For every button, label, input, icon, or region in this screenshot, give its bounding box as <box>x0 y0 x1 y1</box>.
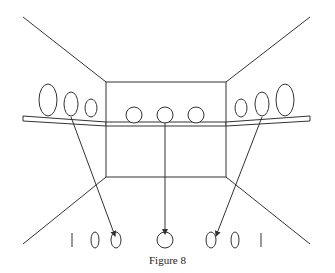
projected-oval <box>111 232 121 248</box>
shelf-object-left <box>85 99 97 117</box>
shelf-object-right <box>255 92 269 116</box>
shelf-right <box>226 116 310 126</box>
projected-circle <box>157 232 173 248</box>
projected-oval <box>91 232 99 248</box>
shelf-object-left <box>39 84 57 116</box>
figure-caption: Figure 8 <box>0 254 335 266</box>
perspective-line-top-right <box>226 17 310 82</box>
perspective-line-top-left <box>23 17 106 82</box>
projected-oval <box>206 232 216 248</box>
perspective-line-bottom-right <box>226 177 310 244</box>
shelf-object-right <box>276 84 294 116</box>
shelf-left <box>23 116 106 126</box>
room-walls <box>23 17 310 244</box>
back-wall <box>106 82 226 177</box>
shelf-objects <box>39 84 294 123</box>
shelf-object-center <box>126 107 142 123</box>
perspective-diagram <box>0 0 335 273</box>
shelf-object-right <box>235 99 247 117</box>
shelf-object-center <box>188 107 204 123</box>
shelf-object-center <box>157 107 173 123</box>
projected-row <box>72 232 261 248</box>
perspective-line-bottom-left <box>23 177 106 244</box>
shelf-object-left <box>64 92 78 116</box>
projected-oval <box>231 232 239 248</box>
